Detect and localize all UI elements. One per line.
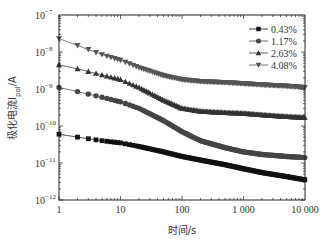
y-tick-exponent: −12 [45,193,56,201]
square-marker [256,27,260,31]
circle-marker [93,93,98,98]
legend-item: 1.17% [249,36,297,47]
y-tick-exponent: −10 [45,119,56,127]
legend-item: 4.08% [249,60,297,71]
square-marker [100,138,105,143]
circle-marker [256,39,261,44]
circle-marker [86,91,91,96]
y-tick-label: 10 [35,84,45,95]
square-marker [75,135,80,140]
y-tick-exponent: −7 [45,8,53,16]
legend-label: 0.43% [271,24,297,35]
series-1.17% [56,85,307,161]
square-marker [104,139,109,144]
y-tick-label: 10 [35,10,45,21]
y-tick-label: 10 [35,158,45,169]
legend-label: 4.08% [271,60,297,71]
circle-marker [75,89,80,94]
x-tick-label: 10 [116,204,126,215]
legend-item: 2.63% [249,48,297,59]
x-tick-label: 100 [175,204,190,215]
y-tick-exponent: −8 [45,45,53,53]
triangle-down-marker [75,43,81,48]
y-tick-label: 10 [35,195,45,206]
triangle-up-marker [122,79,128,84]
x-tick-label: 10 000 [291,204,319,215]
x-tick-label: 1 [57,204,62,215]
series-2.63% [56,62,308,120]
data-curves [56,36,308,182]
square-marker [118,140,123,145]
polarization-current-chart: 1101001 00010 00010−1210−1110−1010−910−8… [0,0,331,241]
y-tick-label: 10 [35,121,45,132]
y-tick-label: 10 [35,47,45,58]
triangle-down-marker [85,47,91,52]
y-tick-exponent: −11 [45,156,56,164]
square-marker [123,141,128,146]
y-axis-title-text: 极化电流Ipol/A [6,76,22,140]
legend: 0.43%1.17%2.63%4.08% [249,24,297,71]
circle-marker [99,95,104,100]
series-4.08% [56,36,308,90]
circle-marker [118,99,123,104]
x-axis-title: 时间/s [168,224,197,236]
square-marker [86,136,91,141]
x-tick-label: 1 000 [232,204,255,215]
y-tick-exponent: −9 [45,82,53,90]
legend-label: 1.17% [271,36,297,47]
y-axis-title: 极化电流Ipol/A [6,76,22,140]
square-marker [94,137,99,142]
legend-label: 2.63% [271,48,297,59]
legend-item: 0.43% [249,24,297,35]
triangle-down-marker [93,50,99,55]
